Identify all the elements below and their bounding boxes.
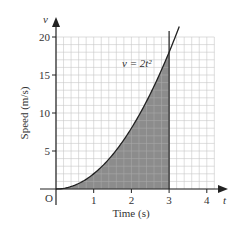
- x-axis-symbol: t: [223, 194, 227, 206]
- y-axis-arrow-icon: [52, 17, 60, 27]
- y-tick-label: 15: [39, 69, 51, 81]
- x-axis-arrow-icon: [218, 185, 228, 193]
- x-tick-label: 4: [204, 194, 210, 206]
- speed-time-chart: 12345101520 O t v Time (s) Speed (m/s) v…: [0, 0, 240, 239]
- y-tick-label: 10: [39, 107, 51, 119]
- x-tick-label: 2: [129, 194, 135, 206]
- origin-label: O: [45, 192, 53, 204]
- x-axis-label: Time (s): [112, 207, 150, 220]
- y-tick-label: 5: [45, 145, 51, 157]
- y-tick-label: 20: [39, 31, 51, 43]
- y-axis-symbol: v: [43, 13, 48, 25]
- y-axis-label: Speed (m/s): [18, 86, 31, 139]
- equation-label: v = 2t²: [122, 57, 152, 69]
- x-tick-label: 3: [166, 194, 172, 206]
- x-tick-label: 1: [91, 194, 97, 206]
